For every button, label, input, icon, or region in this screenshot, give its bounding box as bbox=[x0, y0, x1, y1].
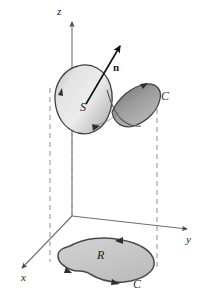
region-label: R bbox=[97, 249, 104, 261]
region-R-shape bbox=[58, 238, 154, 282]
axis-y-line bbox=[72, 216, 187, 229]
surface-right-lobe bbox=[112, 84, 160, 127]
region-R bbox=[58, 238, 154, 282]
surface-label: S bbox=[80, 101, 86, 113]
boundary-curve-label: C bbox=[161, 90, 169, 102]
axis-y-label: y bbox=[186, 234, 191, 245]
normal-vector-label: n bbox=[113, 62, 119, 73]
axis-y bbox=[72, 216, 187, 229]
axis-z-label: z bbox=[57, 6, 61, 17]
projected-curve-label: C bbox=[133, 278, 141, 290]
surface-S bbox=[55, 65, 161, 134]
axis-x-label: x bbox=[21, 272, 26, 283]
stokes-theorem-figure: z y x S R n C C bbox=[0, 0, 207, 302]
